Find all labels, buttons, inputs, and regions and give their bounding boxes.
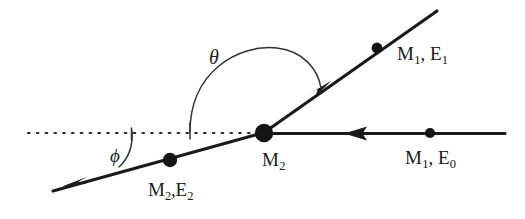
phi-angle-arc	[119, 131, 132, 167]
incident-particle-label: M1, E0	[405, 148, 456, 167]
target-particle-label: M2	[262, 150, 285, 169]
recoil-particle-label: M2,E2	[148, 180, 193, 199]
scattered-mass-subscript: 1	[414, 53, 421, 67]
incident-mass-symbol: M	[405, 147, 422, 168]
incident-mass-subscript: 1	[422, 157, 429, 171]
recoil-particle-dot	[163, 153, 177, 167]
recoil-angle-label: ϕ	[110, 146, 120, 165]
scattered-mass-symbol: M	[397, 43, 414, 64]
scattered-particle-label: M1, E1	[397, 44, 448, 63]
scattering-diagram: M1, E1 M1, E0 M2 M2,E2 θ ϕ	[0, 0, 525, 219]
recoil-energy-subscript: 2	[187, 189, 193, 203]
scattered-label-comma: ,	[420, 43, 430, 64]
target-mass-symbol: M	[262, 149, 279, 170]
incident-particle-dot	[425, 128, 435, 138]
recoil-mass-subscript: 2	[165, 189, 171, 203]
incident-label-comma: ,	[428, 147, 438, 168]
scattered-particle-dot	[372, 43, 383, 54]
scattering-angle-label: θ	[209, 47, 219, 67]
scattered-energy-symbol: E	[430, 43, 442, 64]
incident-energy-symbol: E	[438, 147, 450, 168]
diagram-canvas	[0, 0, 525, 219]
target-particle-vertex-node	[255, 124, 273, 142]
scattered-ray-line	[262, 11, 437, 134]
recoil-mass-symbol: M	[148, 179, 165, 200]
incident-energy-subscript: 0	[450, 157, 457, 171]
target-mass-subscript: 2	[279, 159, 286, 173]
recoil-energy-symbol: E	[176, 179, 187, 200]
scattered-energy-subscript: 1	[442, 53, 449, 67]
